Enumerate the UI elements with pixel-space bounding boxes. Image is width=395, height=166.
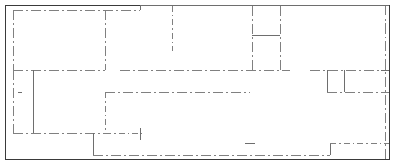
drawing-background: [0, 0, 395, 166]
floor-plan-canvas: [0, 0, 395, 166]
floor-plan-drawing: [0, 0, 395, 166]
